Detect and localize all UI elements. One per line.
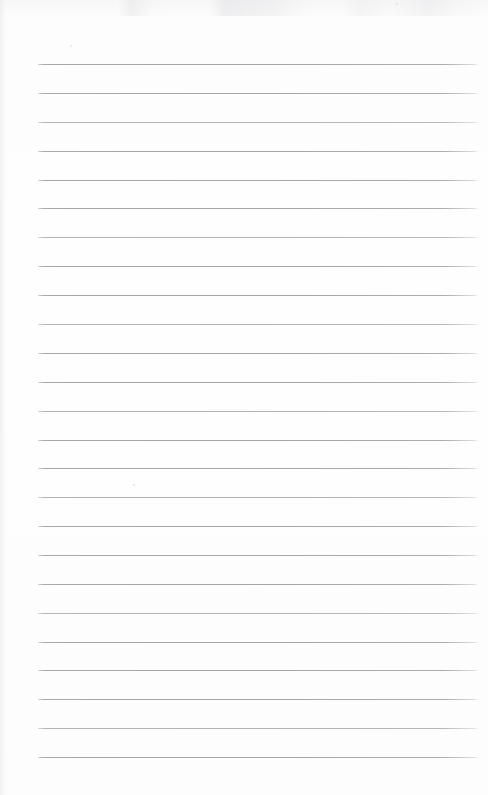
rule-line <box>38 208 478 209</box>
rule-line <box>38 468 478 469</box>
rule-line <box>38 180 478 181</box>
rule-line <box>38 93 478 94</box>
rule-line <box>38 295 478 296</box>
rule-line <box>38 584 478 585</box>
rule-line <box>38 757 478 758</box>
rule-line <box>38 555 478 556</box>
rule-line <box>38 699 478 700</box>
rule-line <box>38 237 478 238</box>
rule-line <box>38 122 478 123</box>
rule-line <box>38 613 478 614</box>
paper-speck <box>70 45 72 47</box>
rule-line <box>38 670 478 671</box>
rule-line <box>38 526 478 527</box>
rule-line <box>38 411 478 412</box>
rule-line <box>38 497 478 498</box>
rule-line <box>38 266 478 267</box>
rule-line <box>38 642 478 643</box>
notepad-page <box>0 0 488 795</box>
rule-line <box>38 64 478 65</box>
rule-line <box>38 353 478 354</box>
paper-speck <box>396 3 398 5</box>
rule-line <box>38 382 478 383</box>
ruled-lines-layer <box>0 0 488 795</box>
rule-line <box>38 151 478 152</box>
rule-line <box>38 324 478 325</box>
rule-line <box>38 728 478 729</box>
paper-speck <box>133 484 135 486</box>
rule-line <box>38 440 478 441</box>
